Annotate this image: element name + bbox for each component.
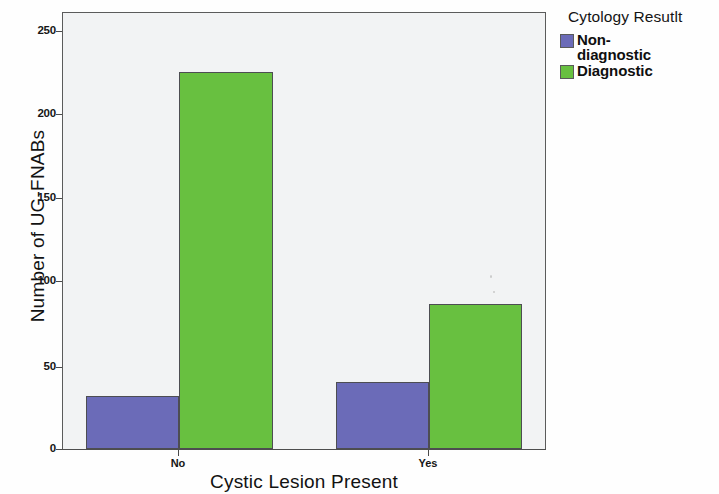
legend-title: Cytology Resutlt [568,8,716,26]
x-tick-mark-yes [428,450,429,456]
legend: Cytology Resutlt Non- diagnostic Diagnos… [560,8,716,80]
legend-item-non-diagnostic: Non- diagnostic [560,32,716,62]
y-tick-label-250: 250 [10,24,56,36]
bar-no-non-diagnostic [86,396,179,449]
x-tick-label-no: No [138,457,218,469]
scan-speck [490,275,492,278]
legend-swatch-non-diagnostic [560,34,574,48]
y-tick-label-0: 0 [10,442,56,454]
legend-label-line2: diagnostic [577,46,651,63]
x-axis-title: Cystic Lesion Present [62,471,546,493]
y-tick-label-100: 100 [10,274,56,286]
x-axis-line [62,449,546,450]
scan-speck [493,291,495,293]
legend-item-diagnostic: Diagnostic [560,63,716,79]
x-tick-label-yes: Yes [388,457,468,469]
bar-yes-diagnostic [429,304,522,449]
x-tick-mark-no [178,450,179,456]
y-tick-label-200: 200 [10,107,56,119]
bars-container [63,13,545,449]
y-tick-label-50: 50 [10,360,56,372]
y-tick-label-150: 150 [10,191,56,203]
y-axis-ticks: 250 200 150 100 50 0 [0,0,56,494]
legend-label-diagnostic: Diagnostic [577,63,653,78]
legend-swatch-diagnostic [560,65,574,79]
legend-label-non-diagnostic: Non- diagnostic [577,32,651,62]
bar-chart-figure: Number of UG-FNABs 250 200 150 100 50 0 … [0,0,719,494]
bar-no-diagnostic [179,72,273,449]
plot-area [62,12,546,450]
bar-yes-non-diagnostic [336,382,429,449]
